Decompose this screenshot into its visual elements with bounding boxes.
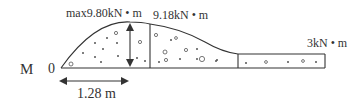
axis-label: M (20, 62, 33, 77)
dimension-arrow-head-right (121, 77, 129, 85)
max-arrow-head-down (126, 59, 134, 67)
dimension-arrow-head-left (59, 77, 67, 85)
moment-curve (61, 22, 150, 68)
moment-slope (150, 24, 238, 54)
mid-moment-label: 9.18kN • m (153, 9, 208, 21)
max-arrow-head-up (126, 23, 134, 31)
bending-moment-diagram: M 0 max9.80kN • m 9.18kN • m 3kN • m 1.2… (0, 0, 361, 105)
max-moment-label: max9.80kN • m (66, 7, 142, 19)
dimension-label: 1.28 m (77, 87, 116, 101)
end-moment-label: 3kN • m (307, 37, 347, 49)
hatch-circles (69, 31, 304, 66)
origin-label: 0 (48, 62, 55, 76)
